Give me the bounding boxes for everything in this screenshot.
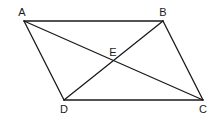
- segment-da: [24, 21, 64, 100]
- segment-bc: [163, 21, 203, 100]
- label-a: A: [18, 6, 26, 18]
- label-e: E: [109, 46, 116, 58]
- edges: [24, 21, 203, 100]
- label-d: D: [60, 103, 68, 115]
- label-b: B: [159, 6, 166, 18]
- label-c: C: [199, 103, 207, 115]
- segment-bd: [64, 21, 163, 100]
- parallelogram-diagram: A B C D E: [0, 0, 218, 119]
